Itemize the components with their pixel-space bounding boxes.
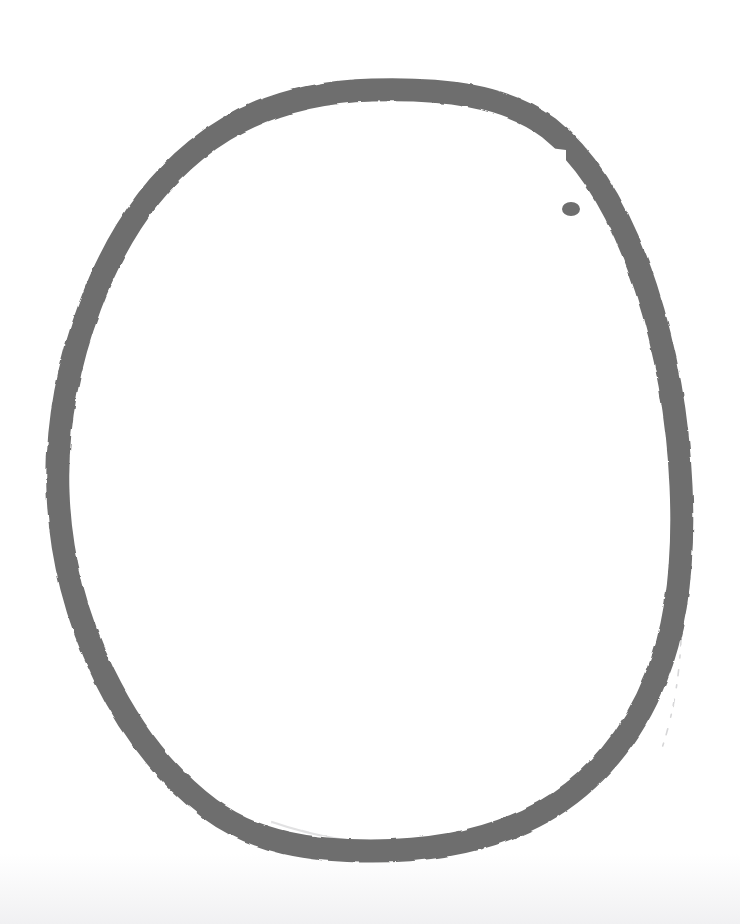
ink-blob-icon xyxy=(562,202,580,216)
hand-drawn-circle-stroke xyxy=(58,90,682,851)
drawing-canvas: Hand-drawn circle A single closed hand-d… xyxy=(0,0,740,924)
upper-right-notch-artifact xyxy=(534,146,566,212)
hand-drawn-circle-drawing xyxy=(0,0,740,924)
